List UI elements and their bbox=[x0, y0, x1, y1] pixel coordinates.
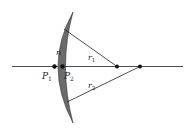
radius-r2-line bbox=[67, 67, 140, 103]
label-r1: r1 bbox=[88, 53, 95, 63]
center-of-curvature-1 bbox=[115, 65, 119, 69]
meniscus-lens-diagram: n r1 r2 P1 P2 bbox=[0, 0, 195, 133]
meniscus-lens bbox=[58, 12, 73, 123]
diagram-canvas: n r1 r2 P1 P2 bbox=[0, 0, 195, 133]
label-p1: P1 bbox=[41, 71, 52, 82]
point-p2 bbox=[60, 64, 64, 68]
center-of-curvature-2 bbox=[138, 65, 142, 69]
point-p1 bbox=[52, 64, 56, 68]
label-n: n bbox=[56, 48, 61, 57]
label-r2: r2 bbox=[88, 81, 95, 91]
label-p2: P2 bbox=[63, 71, 74, 82]
